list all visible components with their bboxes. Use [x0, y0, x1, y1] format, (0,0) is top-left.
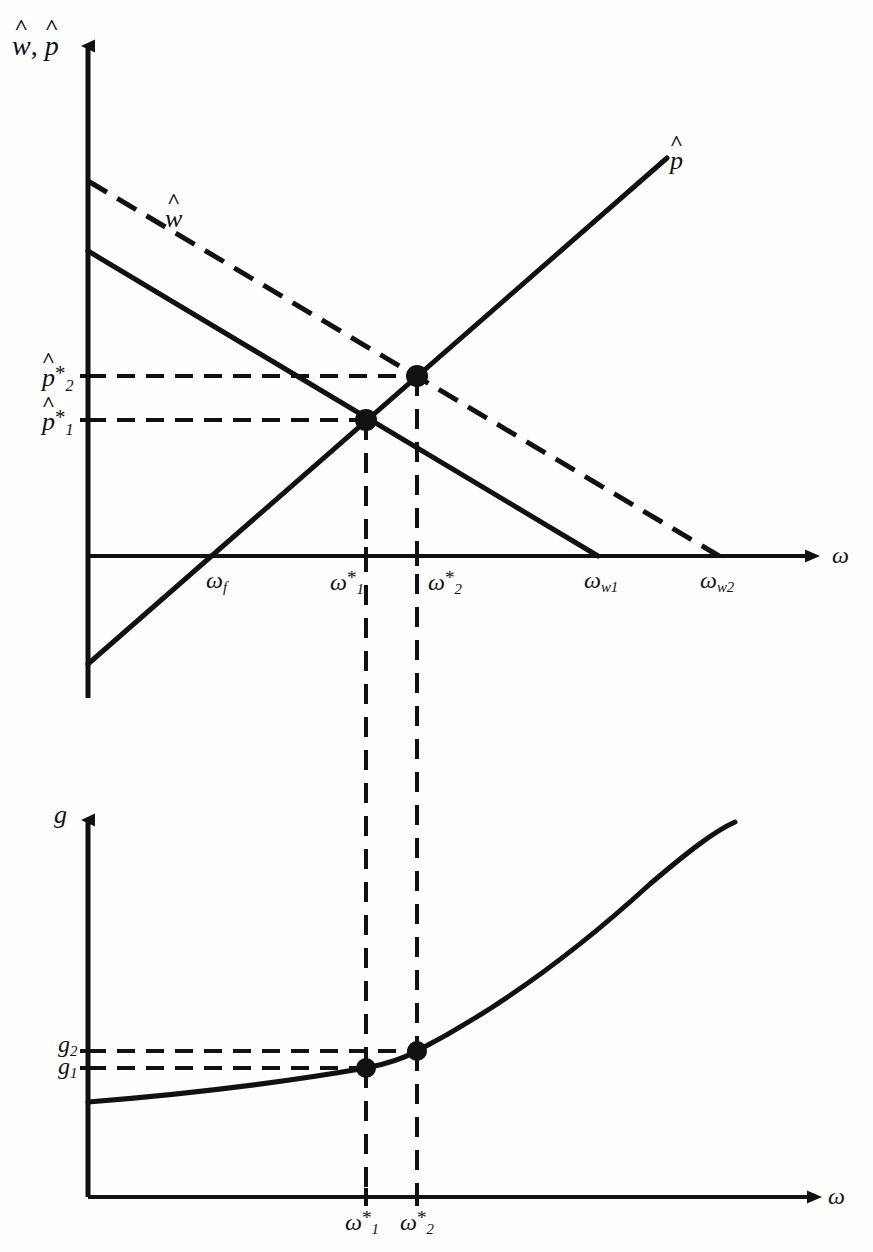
index-subscript: 2: [455, 581, 462, 597]
bottom-panel-curves: [88, 822, 735, 1102]
x-tick-label-omega-f: ωf: [206, 568, 227, 595]
g-curve: [88, 822, 735, 1102]
w-hat-glyph: ˄ w: [12, 22, 31, 60]
growth-point-2: [407, 1041, 427, 1061]
x-tick-label-omega-star-2-top: ω*2: [428, 568, 462, 597]
x-tick-label-omega-star-1-bottom: ω*1: [345, 1208, 379, 1237]
caret-accent-icon: ˄: [671, 131, 683, 152]
p-hat-glyph: ˄ p: [45, 22, 59, 60]
comma-separator: ,: [31, 30, 38, 61]
star-superscript: *: [55, 361, 65, 384]
caret-accent-icon: ˄: [43, 348, 55, 369]
index-subscript: 1: [70, 1065, 77, 1081]
caret-accent-icon: ˄: [45, 14, 58, 36]
x-tick-label-omega-w1: ωw1: [584, 568, 618, 595]
bottom-x-axis-label: ω: [828, 1184, 845, 1208]
figure-vector-layer: [0, 0, 873, 1252]
index-subscript: 1: [357, 581, 364, 597]
index-subscript: w1: [601, 579, 618, 595]
y-tick-label-g1: g1: [58, 1054, 77, 1081]
star-superscript: *: [347, 567, 357, 588]
p-hat-curve: [88, 158, 667, 664]
index-subscript: f: [223, 579, 227, 595]
index-subscript: 2: [65, 377, 73, 394]
caret-accent-icon: ˄: [15, 14, 28, 36]
equilibrium-point-1: [355, 409, 377, 431]
y-tick-label-p-star-1: ˄ p *1: [42, 399, 73, 438]
bottom-panel-axes: [88, 820, 808, 1197]
y-tick-label-p-star-2: ˄ p *2: [42, 355, 73, 394]
top-panel-axes: [88, 46, 806, 698]
p-hat-glyph: ˄ p: [42, 355, 55, 391]
w-hat-glyph: ˄ w: [165, 196, 182, 232]
p-hat-glyph: ˄ p: [670, 138, 683, 174]
index-subscript: 1: [372, 1221, 379, 1237]
p-hat-glyph: ˄ p: [42, 399, 55, 435]
bottom-y-axis-label: g: [54, 802, 67, 828]
index-subscript: w2: [717, 579, 734, 595]
index-subscript: 2: [427, 1221, 434, 1237]
x-tick-label-omega-w2: ωw2: [700, 568, 734, 595]
economics-two-panel-figure: ˄ w , ˄ p ˄ w ˄ p ˄ p *2 ˄ p *1: [0, 0, 873, 1252]
index-subscript: 1: [65, 421, 73, 438]
top-panel-curves: [88, 158, 719, 664]
star-superscript: *: [417, 1207, 427, 1228]
top-x-axis-label: ω: [832, 543, 849, 567]
top-y-axis-label: ˄ w , ˄ p: [12, 22, 59, 60]
caret-accent-icon: ˄: [43, 392, 55, 413]
x-tick-label-omega-star-1-top: ω*1: [330, 568, 364, 597]
caret-accent-icon: ˄: [168, 189, 180, 210]
w-hat-initial-curve: [88, 251, 598, 556]
star-superscript: *: [55, 405, 65, 428]
curve-label-p-hat: ˄ p: [670, 138, 683, 174]
equilibrium-point-2: [406, 365, 428, 387]
growth-point-1: [356, 1058, 376, 1078]
star-superscript: *: [445, 567, 455, 588]
w-hat-shifted-curve: [88, 181, 719, 556]
star-superscript: *: [362, 1207, 372, 1228]
curve-label-w-hat: ˄ w: [165, 196, 182, 232]
x-tick-label-omega-star-2-bottom: ω*2: [400, 1208, 434, 1237]
